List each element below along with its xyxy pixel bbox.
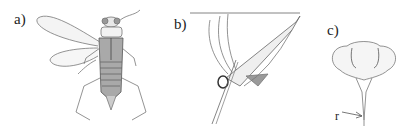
- illustration-canvas: [0, 0, 416, 132]
- insect-dorsal-illustration: [37, 10, 146, 120]
- arrow-icon: [342, 112, 362, 118]
- head-frontal-illustration: [332, 42, 395, 127]
- insect-lateral-illustration: [190, 13, 300, 124]
